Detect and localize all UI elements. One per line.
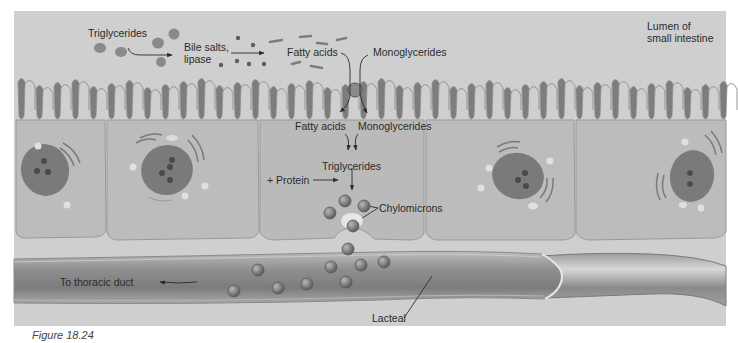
chylomicron: [355, 259, 367, 271]
microvillus: [324, 88, 331, 120]
microvillus: [594, 83, 601, 120]
microvillus: [702, 85, 709, 120]
microvillus: [684, 88, 691, 120]
microvillus: [306, 81, 313, 120]
chylomicron: [228, 285, 240, 297]
microvillus: [504, 88, 511, 120]
microvillus: [414, 83, 421, 120]
microvillus: [180, 82, 187, 120]
microvillus: [54, 83, 61, 120]
label-chylomicrons: Chylomicrons: [379, 202, 443, 214]
label-bile-salts: Bile salts,: [184, 41, 229, 53]
chylomicron: [301, 278, 313, 290]
microvillus: [666, 81, 673, 120]
microvillus: [270, 87, 277, 120]
figure-caption: Figure 18.24: [32, 329, 94, 343]
microvillus: [468, 84, 475, 120]
chylomicron: [325, 261, 337, 273]
microvillus: [450, 87, 457, 120]
label-protein: + Protein: [267, 174, 309, 186]
label-monoglycerides-lumen: Monoglycerides: [373, 46, 447, 58]
microvillus: [216, 86, 223, 120]
label-lumen-line2: small intestine: [647, 32, 714, 44]
label-fatty-acids-cell: Fatty acids: [295, 120, 346, 132]
microvillus: [648, 84, 655, 120]
microvillus: [72, 80, 79, 120]
microvillus: [252, 80, 259, 120]
chylomicron: [324, 207, 336, 219]
microvillus: [558, 79, 565, 120]
microvillus: [540, 82, 547, 120]
epithelial-cells: [16, 120, 726, 240]
chylomicron: [342, 243, 354, 255]
fat-absorption-diagram: Triglycerides Bile salts, lipase Fatty a…: [0, 0, 738, 343]
microvillus: [108, 84, 115, 120]
microvillus: [36, 86, 43, 120]
microvillus: [234, 83, 241, 120]
microvillus: [720, 82, 727, 120]
microvillus-outline: [727, 83, 737, 110]
label-lipase: lipase: [184, 53, 212, 65]
microvillus: [378, 79, 385, 120]
microvillus: [288, 84, 295, 120]
chylomicron: [378, 256, 390, 268]
microvillus: [576, 86, 583, 120]
label-lumen-line1: Lumen of: [647, 20, 691, 32]
chylomicron: [347, 220, 359, 232]
microvillus: [18, 79, 25, 120]
chylomicron: [358, 200, 370, 212]
microvillus: [432, 80, 439, 120]
chylomicron: [340, 276, 352, 288]
microvillus: [90, 87, 97, 120]
chylomicron: [339, 195, 351, 207]
microvillus: [126, 81, 133, 120]
microvillus: [198, 79, 205, 120]
microvillus: [144, 88, 151, 120]
label-monoglycerides-cell: Monoglycerides: [358, 120, 432, 132]
label-thoracic-duct: To thoracic duct: [60, 276, 134, 288]
label-triglycerides-lumen: Triglycerides: [88, 27, 147, 39]
chylomicron: [252, 264, 264, 276]
label-fatty-acids-lumen: Fatty acids: [287, 46, 338, 58]
label-triglycerides-cell: Triglycerides: [322, 160, 381, 172]
microvillus: [522, 85, 529, 120]
microvillus: [162, 85, 169, 120]
chylomicron: [272, 282, 284, 294]
microvillus: [630, 87, 637, 120]
label-lacteal: Lacteal: [372, 312, 406, 324]
microvillus: [612, 80, 619, 120]
microvillus: [396, 86, 403, 120]
microvillus: [486, 81, 493, 120]
